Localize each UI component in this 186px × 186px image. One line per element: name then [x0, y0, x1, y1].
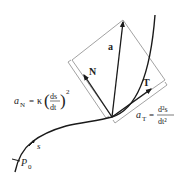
tangent-vector-arrow: [112, 89, 151, 117]
projection-rectangle: [72, 20, 165, 117]
normal-component-bracket-end-top: [68, 60, 71, 62]
curvature-kappa: κ: [37, 95, 42, 106]
tangential-component-equals: =: [149, 110, 154, 120]
tangent-vector-label: T: [143, 77, 150, 88]
normal-component-formula: a N = κ ( ds dt ) 2: [14, 88, 70, 112]
arc-length-label: s: [37, 141, 41, 151]
start-point-label: P: [20, 157, 27, 168]
normal-vector-arrow: [84, 75, 112, 117]
acceleration-diagram: a N T s P 0 a N = κ ( ds dt ) 2 a T = d²…: [0, 0, 186, 186]
tangential-numerator: d²s: [158, 105, 168, 114]
normal-component-subscript: N: [20, 101, 25, 109]
tangential-component-lhs: a: [136, 109, 141, 120]
normal-denominator: dt: [50, 103, 57, 112]
acceleration-vector-label: a: [108, 41, 113, 52]
tangential-denominator: dt²: [158, 117, 167, 126]
tangential-component-subscript: T: [142, 115, 147, 123]
start-point-subscript: 0: [28, 163, 32, 171]
normal-numerator: ds: [50, 92, 57, 101]
normal-component-lhs: a: [14, 95, 19, 106]
normal-vector-label: N: [89, 66, 97, 77]
tangential-component-bracket-end-left: [113, 120, 115, 123]
trajectory-curve: [15, 15, 155, 172]
tangential-component-bracket-end-right: [165, 82, 167, 85]
normal-component-equals: =: [29, 96, 34, 106]
normal-exponent: 2: [66, 88, 70, 96]
paren-close: ): [60, 91, 66, 110]
tangential-component-formula: a T = d²s dt²: [136, 105, 174, 126]
normal-component-bracket: [68, 62, 106, 118]
acceleration-vector-arrow: [112, 22, 123, 117]
